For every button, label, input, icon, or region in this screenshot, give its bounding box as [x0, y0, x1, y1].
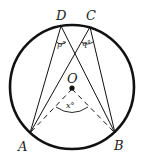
- label-O: O: [67, 71, 78, 86]
- geometry-diagram: D C O A B p° q° x°: [0, 0, 144, 162]
- angle-label-q: q°: [82, 39, 91, 48]
- angle-label-p: p°: [57, 40, 66, 49]
- label-B: B: [113, 138, 124, 153]
- label-A: A: [17, 139, 27, 154]
- label-C: C: [86, 8, 96, 23]
- center-point-O: [69, 85, 74, 90]
- angle-label-x: x°: [66, 101, 75, 110]
- radius-OB: [72, 89, 115, 133]
- label-D: D: [55, 8, 67, 23]
- segment-CB: [90, 27, 115, 133]
